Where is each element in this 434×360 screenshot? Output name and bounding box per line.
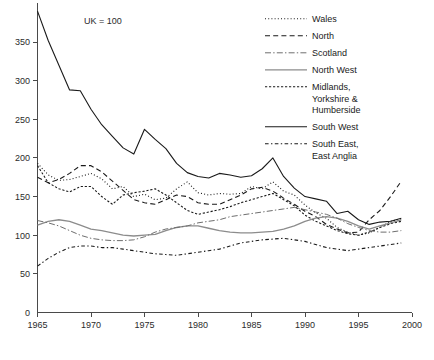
legend-label-midlands-yorkshire-humberside: Midlands, [312, 82, 351, 92]
legend-label-midlands-yorkshire-humberside: Humberside [312, 105, 361, 115]
regional-index-chart: 501001502002503003500 196519701975198019… [0, 0, 434, 360]
x-tick-label: 1980 [188, 320, 208, 330]
y-tick-label: 250 [15, 115, 30, 125]
x-tick-label: 1985 [241, 320, 261, 330]
legend-label-south-east-east-anglia: South East, [312, 139, 359, 149]
x-tick-label: 1965 [27, 320, 47, 330]
y-tick-label: 300 [15, 76, 30, 86]
x-tick-label: 1975 [134, 320, 154, 330]
x-tick-label: 2000 [402, 320, 422, 330]
x-tick-label: 1990 [295, 320, 315, 330]
legend-label-north: North [312, 31, 334, 41]
legend-label-wales: Wales [312, 14, 337, 24]
y-tick-label: 150 [15, 192, 30, 202]
y-tick-label: 350 [15, 37, 30, 47]
legend-label-south-east-east-anglia: East Anglia [312, 151, 357, 161]
chart-canvas: 501001502002503003500 196519701975198019… [0, 0, 434, 360]
legend-label-south-west: South West [312, 122, 359, 132]
uk-base-annotation: UK = 100 [84, 16, 122, 26]
x-tick-label: 1970 [81, 320, 101, 330]
chart-background [0, 0, 434, 360]
x-tick-label: 1995 [348, 320, 368, 330]
legend-label-midlands-yorkshire-humberside: Yorkshire & [312, 94, 358, 104]
y-tick-label: 50 [20, 269, 30, 279]
y-tick-label-zero: 0 [25, 308, 30, 318]
legend-label-north-west: North West [312, 65, 357, 75]
legend-label-scotland: Scotland [312, 48, 347, 58]
y-tick-label: 200 [15, 153, 30, 163]
y-tick-label: 100 [15, 231, 30, 241]
